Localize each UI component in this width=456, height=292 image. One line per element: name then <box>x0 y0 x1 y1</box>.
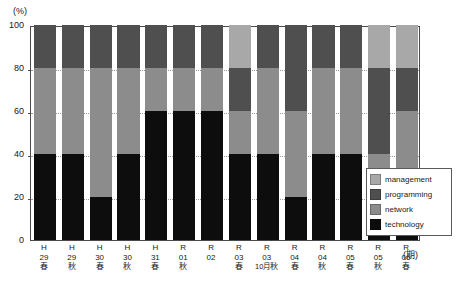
x-label-year: 03 <box>253 253 281 263</box>
legend-item-programming[interactable]: programming <box>370 187 448 202</box>
x-label-season: 春 <box>141 262 169 272</box>
y-axis-tick-40: 40 <box>14 150 24 159</box>
x-label-season: 秋 <box>364 262 392 272</box>
bar-segment-technology <box>340 154 362 240</box>
bar-R03 10月秋 <box>257 27 279 240</box>
y-axis-tick-80: 80 <box>14 64 24 73</box>
x-label-era: R <box>225 243 253 253</box>
x-label-year: 04 <box>309 253 337 263</box>
bar-segment-network <box>90 68 112 197</box>
x-label-era: R <box>169 243 197 253</box>
bar-segment-network <box>229 111 251 154</box>
x-label-season: 春 <box>86 262 114 272</box>
bar-segment-programming <box>62 25 84 68</box>
x-label-era: R <box>392 243 420 253</box>
bar-segment-technology <box>257 154 279 240</box>
x-label-year: 05 <box>364 253 392 263</box>
x-label-era: R <box>281 243 309 253</box>
bar-segment-network <box>62 68 84 154</box>
x-label-year: 31 <box>141 253 169 263</box>
x-label-year: 06 <box>392 253 420 263</box>
legend-swatch-programming <box>370 189 381 200</box>
bar-R03春 <box>229 27 251 240</box>
x-axis-label-R03春: R03春 <box>225 243 253 272</box>
bar-segment-network <box>173 68 195 111</box>
legend-item-technology[interactable]: technology <box>370 217 448 232</box>
bar-R04秋 <box>312 27 334 240</box>
bar-R02 <box>201 27 223 240</box>
x-label-season: 秋 <box>114 262 142 272</box>
legend-swatch-technology <box>370 219 381 230</box>
legend-label-management: management <box>385 175 432 184</box>
bar-segment-technology <box>62 154 84 240</box>
bar-R01秋 <box>173 27 195 240</box>
bar-segment-technology <box>173 111 195 240</box>
bar-segment-programming <box>340 25 362 68</box>
x-axis-label-R05春: R05春 <box>336 243 364 272</box>
bar-segment-programming <box>34 25 56 68</box>
x-label-year: 05 <box>336 253 364 263</box>
bar-segment-programming <box>145 25 167 68</box>
x-axis-label-R02: R02 <box>197 243 225 262</box>
x-label-era: R <box>253 243 281 253</box>
x-label-year: 01 <box>169 253 197 263</box>
bar-segment-management <box>368 25 390 68</box>
bar-segment-technology <box>312 154 334 240</box>
x-label-season: 秋 <box>169 262 197 272</box>
bar-segment-management <box>396 25 418 68</box>
x-label-year: 30 <box>86 253 114 263</box>
bar-R05春 <box>340 27 362 240</box>
bar-segment-programming <box>257 25 279 68</box>
legend-item-network[interactable]: network <box>370 202 448 217</box>
x-label-season: 春 <box>392 262 420 272</box>
bar-H29秋 <box>62 27 84 240</box>
x-label-era: R <box>336 243 364 253</box>
bar-H30春 <box>90 27 112 240</box>
bar-segment-network <box>201 68 223 111</box>
x-label-season: 秋 <box>309 262 337 272</box>
x-axis-label-H30秋: H30秋 <box>114 243 142 272</box>
bar-H29春 <box>34 27 56 240</box>
plot-area <box>30 26 420 241</box>
legend-label-programming: programming <box>385 190 432 199</box>
x-label-year: 30 <box>114 253 142 263</box>
x-label-era: R <box>364 243 392 253</box>
x-label-season: 秋 <box>58 262 86 272</box>
x-axis-label-H29秋: H29秋 <box>58 243 86 272</box>
y-axis-tick-100: 100 <box>9 21 24 30</box>
bar-segment-programming <box>229 68 251 111</box>
bar-segment-programming <box>396 68 418 111</box>
bar-segment-technology <box>90 197 112 240</box>
x-axis-label-R01秋: R01秋 <box>169 243 197 272</box>
y-axis-tick-labels: 100806040200 <box>0 26 27 241</box>
bar-segment-programming <box>117 25 139 68</box>
x-label-era: H <box>114 243 142 253</box>
x-label-year: 03 <box>225 253 253 263</box>
x-axis-label-R03 10月秋: R0310月秋 <box>253 243 281 271</box>
legend-item-management[interactable]: management <box>370 172 448 187</box>
x-label-year: 04 <box>281 253 309 263</box>
bar-segment-technology <box>229 154 251 240</box>
y-axis-tick-0: 0 <box>19 236 24 245</box>
x-label-note-season: 10月秋 <box>253 262 281 271</box>
x-axis-label-H29春: H29春 <box>30 243 58 272</box>
bar-segment-network <box>34 68 56 154</box>
y-axis-tick-20: 20 <box>14 193 24 202</box>
x-label-era: H <box>141 243 169 253</box>
bar-segment-programming <box>285 25 307 111</box>
y-axis-unit-label: (%) <box>13 6 27 16</box>
x-label-note: 10月 <box>255 262 270 271</box>
x-axis-label-R04秋: R04秋 <box>309 243 337 272</box>
chart-legend: managementprogrammingnetworktechnology <box>366 168 452 236</box>
y-axis-tick-60: 60 <box>14 107 24 116</box>
x-label-season: 春 <box>336 262 364 272</box>
bar-segment-programming <box>173 25 195 68</box>
bar-segment-network <box>145 68 167 111</box>
bar-segment-network <box>340 68 362 154</box>
bar-segment-programming <box>368 68 390 154</box>
x-axis-label-R04春: R04春 <box>281 243 309 272</box>
bar-segment-technology <box>34 154 56 240</box>
bar-H30秋 <box>117 27 139 240</box>
bar-segment-programming <box>312 25 334 68</box>
legend-swatch-management <box>370 174 381 185</box>
